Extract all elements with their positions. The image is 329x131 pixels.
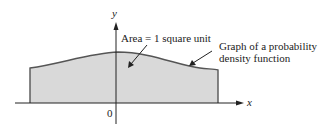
pdf-diagram	[0, 0, 329, 131]
x-axis-arrow-icon	[236, 101, 244, 106]
shaded-area	[30, 52, 218, 103]
y-axis-arrow-icon	[114, 22, 119, 30]
graph-pointer-line	[193, 51, 212, 63]
area-annotation: Area = 1 square unit	[121, 32, 211, 44]
graph-pointer-arrow-icon	[189, 60, 196, 66]
origin-label: 0	[107, 107, 113, 119]
graph-annotation-line1: Graph of a probability	[219, 40, 317, 52]
x-axis-label: x	[247, 96, 252, 108]
y-axis-label: y	[112, 7, 117, 19]
graph-annotation-line2: density function	[219, 52, 290, 64]
